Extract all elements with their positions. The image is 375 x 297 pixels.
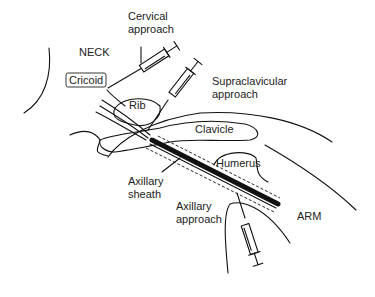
label-cervical-approach-2: approach (128, 23, 174, 35)
label-neck: NECK (79, 46, 110, 58)
arm-outline (265, 145, 356, 210)
clavicle-outline (100, 121, 258, 152)
nerve-root-4 (107, 90, 125, 106)
neck-outline (24, 48, 50, 113)
label-arm: ARM (297, 210, 321, 222)
lower-neck-outline (70, 131, 108, 156)
label-humerus: Humerus (216, 157, 261, 169)
label-rib: Rib (129, 99, 146, 111)
label-axillary-approach-2: approach (176, 213, 222, 225)
label-axillary-approach-1: Axillary (176, 200, 212, 212)
cervical-syringe-icon (108, 41, 180, 88)
label-axillary-sheath-1: Axillary (128, 175, 164, 187)
label-cervical-approach-1: Cervical (128, 10, 168, 22)
nerve-bundle (152, 140, 278, 204)
label-clavicle: Clavicle (195, 123, 234, 135)
label-axillary-sheath-2: sheath (128, 188, 161, 200)
label-supraclavicular-1: Supraclavicular (212, 75, 288, 87)
axillary-syringe-icon (237, 193, 264, 267)
nerve-bundle-strand (150, 144, 276, 208)
brachial-plexus-diagram: Cervical approach NECK Cricoid Rib Supra… (0, 0, 375, 297)
label-supraclavicular-2: approach (212, 88, 258, 100)
label-cricoid: Cricoid (69, 74, 103, 86)
